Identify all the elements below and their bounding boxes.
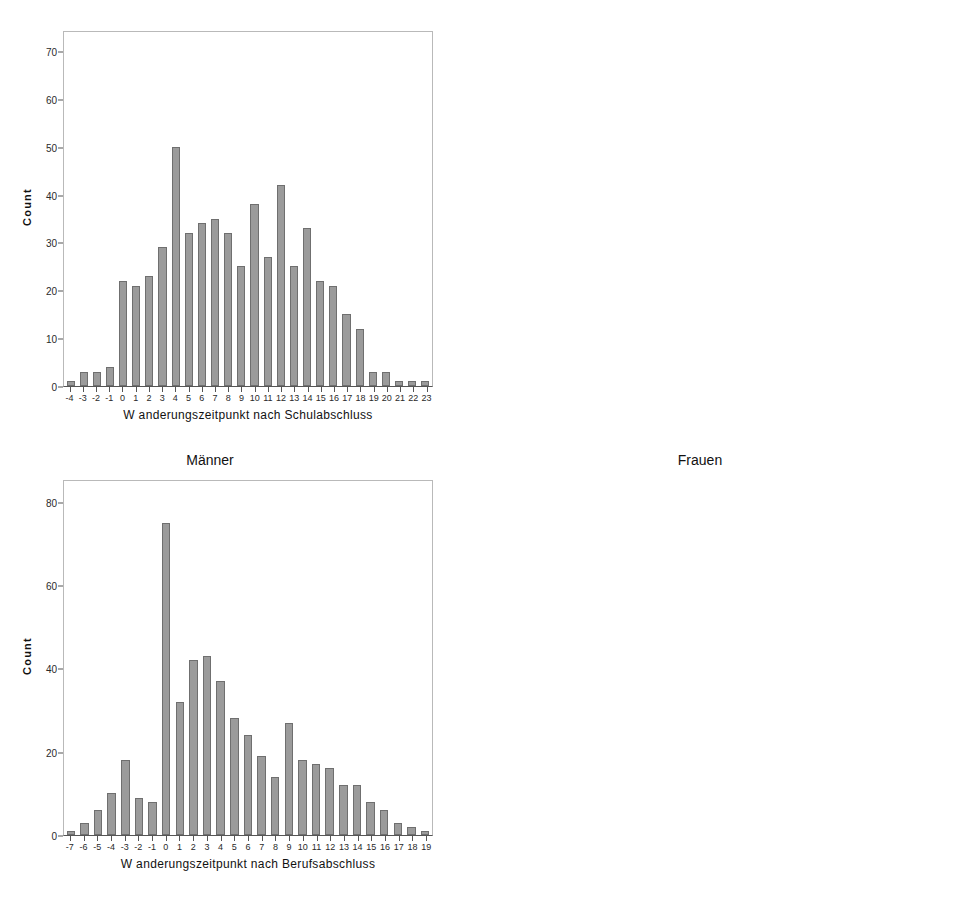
histogram-maenner-schulabschluss: 010203040506070Count-4-3-2-1012345678910… xyxy=(0,0,482,456)
bar[interactable] xyxy=(176,702,184,835)
bar[interactable] xyxy=(303,228,311,386)
bar[interactable] xyxy=(312,764,320,835)
x-tick-mark xyxy=(385,836,386,841)
x-tick-mark xyxy=(413,387,414,392)
bar[interactable] xyxy=(250,204,258,386)
bar[interactable] xyxy=(145,276,153,386)
bar[interactable] xyxy=(185,233,193,386)
bar[interactable] xyxy=(230,718,238,835)
x-tick-slot xyxy=(116,387,129,392)
bar[interactable] xyxy=(290,266,298,386)
bar[interactable] xyxy=(132,286,140,386)
bar[interactable] xyxy=(94,810,102,835)
bar[interactable] xyxy=(329,286,337,386)
bar[interactable] xyxy=(353,785,361,835)
bar[interactable] xyxy=(107,793,115,835)
bar[interactable] xyxy=(277,185,285,386)
x-tick-slot xyxy=(169,387,182,392)
bar-slot xyxy=(248,32,261,386)
bar[interactable] xyxy=(316,281,324,386)
bar[interactable] xyxy=(380,810,388,835)
bar[interactable] xyxy=(394,823,402,835)
x-tick-slot xyxy=(323,836,337,841)
bar[interactable] xyxy=(382,372,390,386)
bar[interactable] xyxy=(407,827,415,835)
bar[interactable] xyxy=(421,381,429,386)
x-tick-label: 7 xyxy=(208,393,221,404)
bar[interactable] xyxy=(211,219,219,386)
x-tick-label: 11 xyxy=(261,393,274,404)
x-tick-slot xyxy=(288,387,301,392)
bar[interactable] xyxy=(198,223,206,386)
x-tick-mark xyxy=(255,387,256,392)
x-tick-slot xyxy=(341,387,354,392)
bar[interactable] xyxy=(369,372,377,386)
x-axis-labels: -7-6-5-4-3-2-101234567891011121314151617… xyxy=(63,842,433,853)
bar[interactable] xyxy=(148,802,156,835)
bar-slot xyxy=(393,32,406,386)
bar[interactable] xyxy=(257,756,265,835)
bar[interactable] xyxy=(408,381,416,386)
bar-slot xyxy=(353,32,366,386)
bar[interactable] xyxy=(421,831,429,835)
y-tick-mark xyxy=(58,586,63,587)
bar-slot xyxy=(406,32,419,386)
y-tick-label: 40 xyxy=(46,190,57,201)
bar[interactable] xyxy=(264,257,272,386)
bar[interactable] xyxy=(216,681,224,835)
x-tick-mark xyxy=(202,387,203,392)
bar-slot xyxy=(182,32,195,386)
x-tick-slot xyxy=(269,836,283,841)
bar[interactable] xyxy=(356,329,364,386)
x-tick-slot xyxy=(89,387,102,392)
x-tick-slot xyxy=(354,387,367,392)
x-tick-slot xyxy=(261,387,274,392)
bar[interactable] xyxy=(172,147,180,386)
x-tick-slot xyxy=(103,387,116,392)
bar[interactable] xyxy=(271,777,279,835)
bar[interactable] xyxy=(339,785,347,835)
x-tick-slot xyxy=(420,387,433,392)
x-tick-label: 8 xyxy=(269,842,283,853)
bar[interactable] xyxy=(366,802,374,835)
bar-slot xyxy=(327,32,340,386)
y-tick-mark xyxy=(58,99,63,100)
bar[interactable] xyxy=(162,523,170,835)
bar[interactable] xyxy=(325,768,333,835)
bar[interactable] xyxy=(67,831,75,835)
bar-slot xyxy=(214,481,228,835)
x-tick-slot xyxy=(214,836,228,841)
bar-slot xyxy=(391,481,405,835)
x-tick-label: 23 xyxy=(420,393,433,404)
x-tick-slot xyxy=(77,836,91,841)
x-tick-mark xyxy=(374,387,375,392)
bar[interactable] xyxy=(395,381,403,386)
bar[interactable] xyxy=(67,381,75,386)
x-tick-label: 17 xyxy=(341,393,354,404)
x-tick-mark xyxy=(317,836,318,841)
bar[interactable] xyxy=(244,735,252,835)
bar-slot xyxy=(309,481,323,835)
bar[interactable] xyxy=(93,372,101,386)
bar[interactable] xyxy=(224,233,232,386)
bar[interactable] xyxy=(285,723,293,835)
bar[interactable] xyxy=(80,823,88,835)
bar[interactable] xyxy=(342,314,350,386)
bar[interactable] xyxy=(298,760,306,835)
x-tick-label: -1 xyxy=(145,842,159,853)
figure-sheet: 010203040506070Count-4-3-2-1012345678910… xyxy=(0,0,964,912)
x-tick-mark xyxy=(400,387,401,392)
bar[interactable] xyxy=(135,798,143,835)
x-tick-label: 8 xyxy=(222,393,235,404)
bar[interactable] xyxy=(189,660,197,835)
bar[interactable] xyxy=(121,760,129,835)
bar[interactable] xyxy=(119,281,127,386)
bar-slot xyxy=(301,32,314,386)
bar[interactable] xyxy=(80,372,88,386)
bar-slot xyxy=(103,32,116,386)
bar[interactable] xyxy=(203,656,211,835)
x-tick-slot xyxy=(327,387,340,392)
bar[interactable] xyxy=(106,367,114,386)
bar[interactable] xyxy=(158,247,166,386)
bar[interactable] xyxy=(237,266,245,386)
